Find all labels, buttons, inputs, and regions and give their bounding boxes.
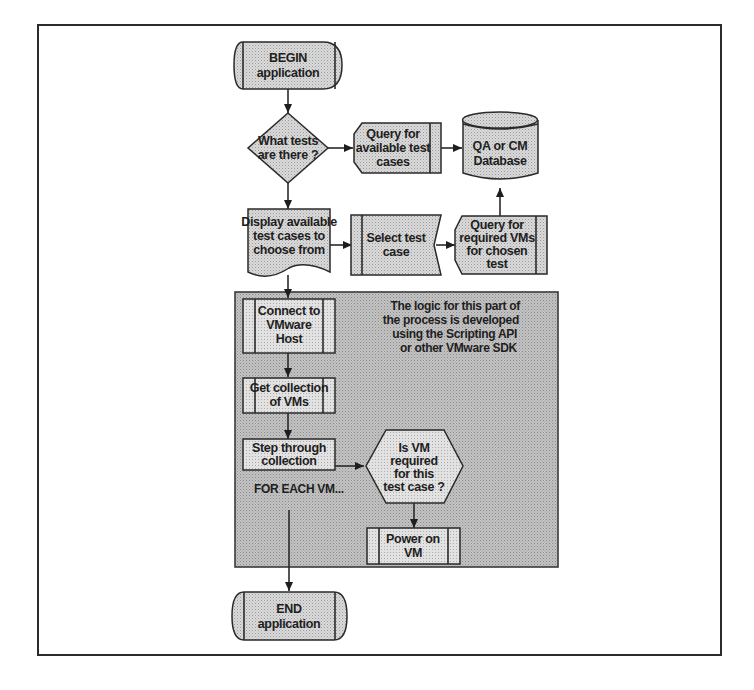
qa-cm-database: QA or CM Database <box>463 112 539 179</box>
decision-tests-line1: What tests <box>258 134 319 148</box>
query-required-line1: Query for <box>470 218 524 232</box>
connect-host-line1: Connect to <box>258 304 321 318</box>
display-line3: choose from <box>253 243 325 257</box>
query-available-test-cases: Query for available test cases <box>354 123 441 173</box>
flowchart-diagram: The logic for this part of the process i… <box>0 0 754 690</box>
connect-host-line2: VMware <box>266 318 312 332</box>
vm-required-line1: Is VM <box>398 441 429 455</box>
connect-host-line3: Host <box>276 332 304 346</box>
end-label-line1: END <box>276 602 302 616</box>
connect-vmware-host: Connect to VMware Host <box>243 299 335 353</box>
step-through-collection: Step through collection <box>243 439 335 470</box>
query-required-line3: for chosen <box>467 244 528 258</box>
end-label-line2: application <box>258 617 321 631</box>
query-available-line2: available test <box>356 141 431 155</box>
display-line2: test cases to <box>253 229 325 243</box>
power-on-line1: Power on <box>386 532 440 546</box>
power-on-vm: Power on VM <box>367 528 460 564</box>
begin-terminator: BEGIN application <box>234 42 342 89</box>
get-collection-line1: Get collection <box>250 381 328 395</box>
vm-required-line2: required <box>390 454 438 468</box>
select-test-case: Select test case <box>351 215 441 275</box>
region-note-line2: the process is developed <box>383 313 519 327</box>
database-label-line1: QA or CM <box>473 139 528 153</box>
for-each-vm-label: FOR EACH VM... <box>254 482 344 496</box>
display-line1: Display available <box>241 215 337 229</box>
step-through-line2: collection <box>261 454 316 468</box>
query-required-line2: required VMs <box>459 231 535 245</box>
region-note-line4: or other VMware SDK <box>400 341 518 355</box>
get-vm-collection: Get collection of VMs <box>243 378 335 413</box>
power-on-line2: VM <box>404 546 422 560</box>
step-through-line1: Step through <box>252 441 326 455</box>
vm-required-line3: for this <box>394 467 434 481</box>
decision-tests-line2: are there ? <box>258 148 319 162</box>
database-label-line2: Database <box>473 154 527 168</box>
query-required-vms: Query for required VMs for chosen test <box>455 216 547 274</box>
region-note-line3: using the Scripting API <box>392 327 517 341</box>
decision-vm-required: Is VM required for this test case ? <box>366 430 463 503</box>
query-required-line4: test <box>486 257 508 271</box>
display-test-cases-document: Display available test cases to choose f… <box>241 209 337 276</box>
begin-label-line1: BEGIN <box>269 51 307 65</box>
select-case-line1: Select test <box>366 231 426 245</box>
vm-required-line4: test case ? <box>383 480 444 494</box>
query-available-line1: Query for <box>366 127 420 141</box>
region-note-line1: The logic for this part of <box>390 299 521 313</box>
end-terminator: END application <box>232 592 347 640</box>
get-collection-line2: of VMs <box>269 395 309 409</box>
query-available-line3: cases <box>376 155 410 169</box>
select-case-line2: case <box>383 245 410 259</box>
begin-label-line2: application <box>257 66 320 80</box>
